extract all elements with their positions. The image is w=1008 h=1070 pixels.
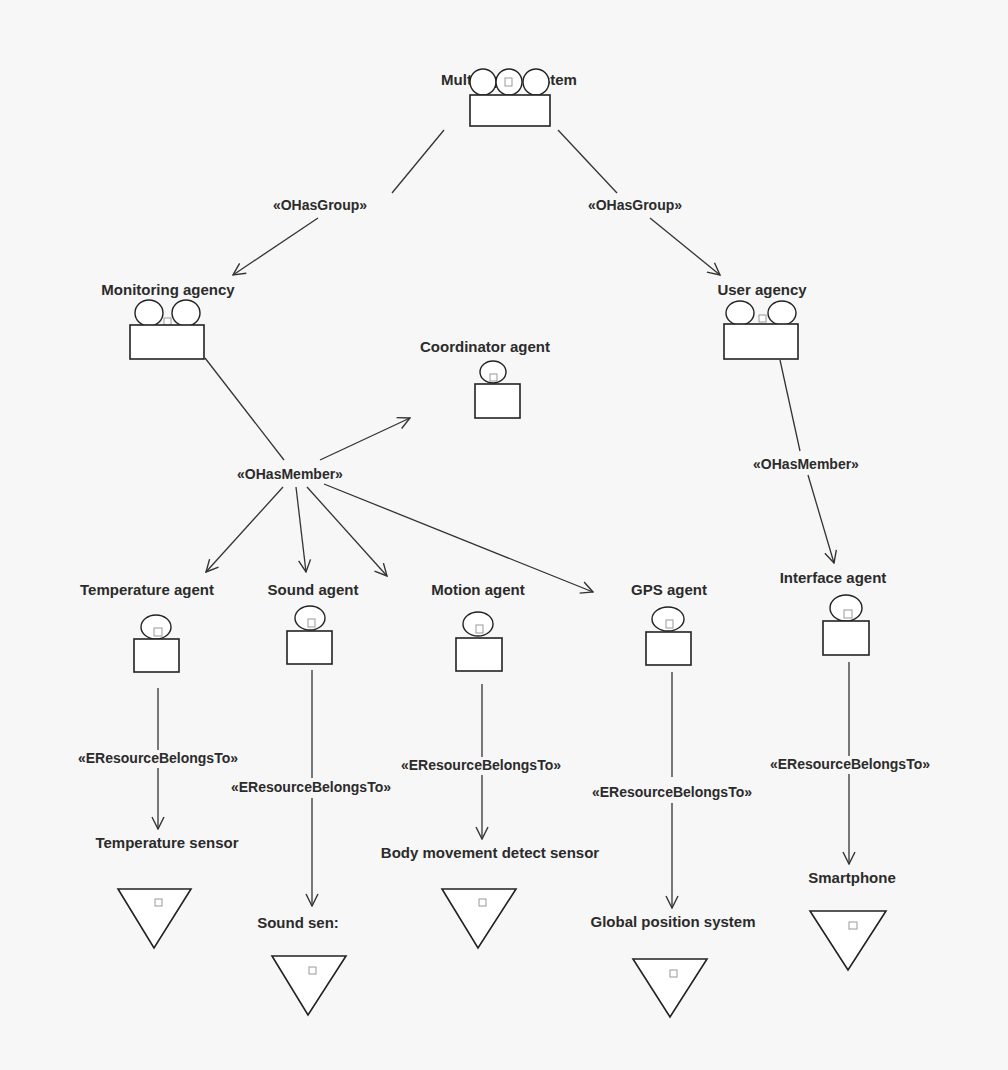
node-label: Temperature sensor (95, 834, 238, 851)
stereotype-ohasgroup-right: «OHasGroup» (588, 197, 682, 213)
node-temperature-agent[interactable]: Temperature agent (80, 581, 214, 672)
node-label: Body movement detect sensor (381, 844, 600, 861)
stereotype-ohasgroup-left: «OHasGroup» (273, 197, 367, 213)
resource-triangle-icon (118, 889, 191, 948)
resource-triangle-icon (442, 889, 516, 948)
resource-triangle-icon (272, 956, 346, 1015)
stereotype-ohasmember-user: «OHasMember» (753, 456, 859, 472)
node-label: Motion agent (431, 581, 524, 598)
node-label: Coordinator agent (420, 338, 550, 355)
node-interface-agent[interactable]: Interface agent (780, 569, 887, 655)
node-label: Monitoring agency (101, 281, 235, 298)
node-label: Temperature agent (80, 581, 214, 598)
node-label: Sound agent (268, 581, 359, 598)
group-icon (130, 300, 204, 359)
stereotype-ohasmember-monitoring: «OHasMember» (237, 466, 343, 482)
stereotype-resource-temperature: «EResourceBelongsTo» (78, 750, 238, 766)
diagram-canvas: «OHasGroup» «OHasGroup» «OHasMember» «OH… (0, 0, 1008, 1070)
node-global-position-system[interactable]: Global position system (590, 913, 755, 1017)
node-label: User agency (717, 281, 807, 298)
stereotype-resource-sound: «EResourceBelongsTo» (231, 779, 391, 795)
node-motion-agent[interactable]: Motion agent (431, 581, 524, 671)
stereotype-resource-gps: «EResourceBelongsTo» (592, 784, 752, 800)
node-label: Interface agent (780, 569, 887, 586)
node-coordinator-agent[interactable]: Coordinator agent (420, 338, 550, 418)
organization-icon (470, 69, 550, 126)
agent-icon (456, 612, 502, 671)
group-icon (724, 301, 798, 359)
node-sound-agent[interactable]: Sound agent (268, 581, 359, 664)
node-user-agency[interactable]: User agency (717, 281, 807, 359)
node-smartphone[interactable]: Smartphone (808, 869, 896, 970)
node-sound-sensor[interactable]: Sound sen: (257, 914, 346, 1015)
agent-icon (134, 615, 179, 672)
node-monitoring-agency[interactable]: Monitoring agency (101, 281, 235, 359)
node-label: Global position system (590, 913, 755, 930)
stereotype-resource-motion: «EResourceBelongsTo» (401, 757, 561, 773)
node-label: Smartphone (808, 869, 896, 886)
resource-triangle-icon (633, 959, 707, 1017)
agent-icon (287, 606, 332, 664)
agent-icon (646, 607, 691, 665)
node-temperature-sensor[interactable]: Temperature sensor (95, 834, 238, 948)
node-multi-agent-system[interactable]: Multi-agent system (441, 69, 577, 126)
node-body-movement-sensor[interactable]: Body movement detect sensor (381, 844, 600, 948)
agent-icon (475, 361, 520, 418)
node-gps-agent[interactable]: GPS agent (631, 581, 707, 665)
resource-triangle-icon (810, 911, 886, 970)
stereotype-resource-interface: «EResourceBelongsTo» (770, 756, 930, 772)
node-label: GPS agent (631, 581, 707, 598)
node-label: Sound sen: (257, 914, 339, 931)
agent-icon (823, 595, 869, 655)
